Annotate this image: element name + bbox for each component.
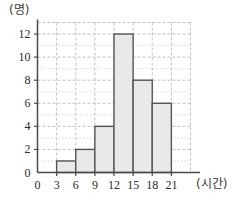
histogram-chart: (명) (시간) 024681012036912151821 [0,0,234,201]
bar [57,161,76,173]
bar [152,103,171,172]
bar [114,34,133,172]
plot-area [0,0,234,201]
bar [95,126,114,172]
bar [76,149,95,172]
bar [133,80,152,172]
